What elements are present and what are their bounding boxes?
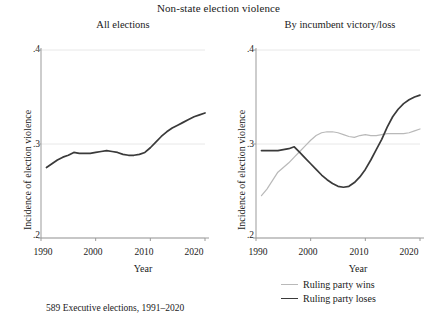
figure-footnote: 589 Executive elections, 1991–2020 bbox=[46, 303, 184, 313]
gridlines-left bbox=[41, 50, 205, 238]
legend-swatch-wins-icon bbox=[281, 284, 298, 285]
data-lines-right bbox=[261, 95, 420, 196]
data-lines-left bbox=[46, 113, 205, 168]
legend-item-ruling-party-loses: Ruling party loses bbox=[281, 293, 376, 304]
legend-item-ruling-party-wins: Ruling party wins bbox=[281, 279, 375, 290]
figure-container: Non-state election violence All election… bbox=[0, 0, 437, 330]
legend-swatch-loses-icon bbox=[281, 298, 298, 299]
gridlines-right bbox=[256, 50, 420, 238]
legend-label-wins: Ruling party wins bbox=[303, 279, 375, 290]
legend-label-loses: Ruling party loses bbox=[303, 293, 376, 304]
